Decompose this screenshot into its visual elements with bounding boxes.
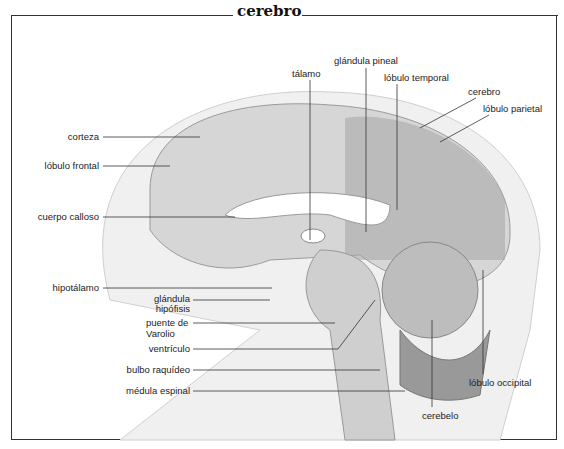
label-puente-2: Varolio (146, 328, 175, 339)
label-medula-espinal: médula espinal (126, 385, 190, 396)
label-cuerpo-calloso: cuerpo calloso (38, 211, 99, 222)
label-talamo: tálamo (292, 68, 321, 79)
label-cerebro: cerebro (468, 86, 500, 97)
label-hipotalamo: hipotálamo (53, 282, 99, 293)
label-corteza: corteza (68, 131, 99, 142)
label-bulbo-raquideo: bulbo raquídeo (127, 364, 190, 375)
label-lobulo-parietal: lóbulo parietal (483, 103, 542, 114)
label-lobulo-frontal: lóbulo frontal (45, 160, 99, 171)
label-lobulo-occipital: lóbulo occipital (469, 377, 531, 388)
label-lobulo-temporal: lóbulo temporal (384, 72, 449, 83)
label-ventriculo: ventrículo (149, 343, 190, 354)
label-cerebelo: cerebelo (422, 410, 458, 421)
label-puente-1: puente de (146, 317, 188, 328)
label-glandula-hipofisis-2: hipófisis (156, 303, 190, 314)
label-glandula-pineal: glándula pineal (334, 55, 398, 66)
